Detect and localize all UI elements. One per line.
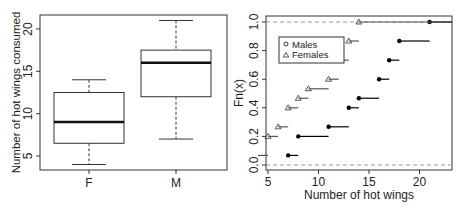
point-circle-icon — [397, 39, 401, 43]
y-axis-label: Fn(x) — [232, 79, 246, 107]
chart-canvas: 5101520FMNumber of hot wings consumed510… — [0, 0, 466, 214]
box-F — [54, 92, 124, 143]
y-tick-label: 0.6 — [247, 71, 261, 88]
x-tick-label: 5 — [265, 175, 272, 189]
point-circle-icon — [377, 77, 381, 81]
legend-label-males: Males — [292, 39, 318, 50]
legend-label-females: Females — [292, 49, 329, 60]
x-tick-label: M — [171, 176, 181, 190]
point-circle-icon — [296, 134, 300, 138]
point-circle-icon — [387, 58, 391, 62]
point-circle-icon — [357, 96, 361, 100]
y-axis-label: Number of hot wings consumed — [10, 12, 22, 174]
y-tick-label: 0.8 — [247, 42, 261, 59]
y-tick-label: 5 — [21, 152, 35, 159]
y-tick-label: 0.0 — [247, 156, 261, 173]
y-tick-label: 15 — [21, 64, 35, 78]
x-tick-label: 10 — [312, 175, 326, 189]
point-circle-icon — [326, 125, 330, 129]
y-tick-label: 0.4 — [247, 99, 261, 116]
x-tick-label: 15 — [362, 175, 376, 189]
figure: 5101520FMNumber of hot wings consumed510… — [0, 0, 466, 214]
x-tick-label: 20 — [413, 175, 427, 189]
y-tick-label: 20 — [21, 22, 35, 36]
y-tick-label: 0.2 — [247, 128, 261, 145]
legend: MalesFemales — [279, 37, 344, 63]
x-tick-label: F — [85, 176, 92, 190]
y-tick-label: 1.0 — [247, 13, 261, 30]
x-axis-label: Number of hot wings — [304, 188, 414, 202]
point-circle-icon — [286, 153, 290, 157]
y-tick-label: 10 — [21, 107, 35, 121]
point-circle-icon — [347, 106, 351, 110]
box-M — [141, 50, 211, 97]
